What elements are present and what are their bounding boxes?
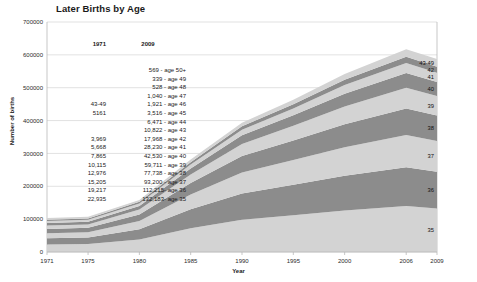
y-axis-tick: 0 (40, 249, 44, 255)
x-axis-tick: 2006 (400, 258, 414, 264)
y-axis-tick: 100000 (23, 216, 44, 222)
y-axis-tick: 300000 (23, 151, 44, 157)
table-row (58, 66, 106, 75)
series-label-42: 42 (428, 67, 434, 73)
table-row: 43-49 (58, 100, 106, 109)
x-axis-tick: 1995 (287, 258, 301, 264)
x-axis-tick: 1990 (235, 258, 249, 264)
table-row (58, 75, 106, 84)
x-axis-tick: 1980 (133, 258, 147, 264)
table-row: 1,921 - age 46 (110, 100, 186, 109)
table-row: 10,822 - age 43 (110, 126, 186, 135)
table-row: 22,935 (58, 195, 106, 204)
table-row: 339 - age 49 (110, 75, 186, 84)
table-row: 59,711 - age 39 (110, 161, 186, 170)
x-axis-tick: 2000 (338, 258, 352, 264)
table-row (58, 83, 106, 92)
y-axis-tick: 500000 (23, 85, 44, 91)
table-row: 12,976 (58, 169, 106, 178)
table-row: 112,215- age 36 (110, 186, 186, 195)
table-row: 569 - age 50+ (110, 66, 186, 75)
table-row: 28,230 - age 41 (110, 143, 186, 152)
table-row: 6,471 - age 44 (110, 118, 186, 127)
y-axis-tick: 700000 (23, 19, 44, 25)
table-row: 5161 (58, 109, 106, 118)
series-label-43-49: 43-49 (419, 60, 434, 66)
y-axis-tick: 200000 (23, 183, 44, 189)
x-axis-tick: 1985 (184, 258, 198, 264)
y-axis-tick: 400000 (23, 118, 44, 124)
table-row: 17,968 - age 42 (110, 135, 186, 144)
table-row: 19,217 (58, 186, 106, 195)
table-row: 77,738 - age 38 (110, 169, 186, 178)
data-table-1971: 1971 43-4951613,9695,6687,86510,11512,97… (58, 23, 106, 221)
table-row (58, 126, 106, 135)
table-row: 5,668 (58, 143, 106, 152)
table-row: 42,530 - age 40 (110, 152, 186, 161)
table-header-1971: 1971 (58, 40, 106, 49)
table-row (58, 118, 106, 127)
series-label-36: 36 (428, 187, 434, 193)
table-header-2009: 2009 (110, 40, 186, 49)
chart-container: Later Births by Age Number of births Yea… (0, 0, 477, 282)
table-row: 15,205 (58, 178, 106, 187)
x-axis-tick: 1975 (81, 258, 95, 264)
table-row: 7,865 (58, 152, 106, 161)
table-row: 3,969 (58, 135, 106, 144)
series-label-39: 39 (428, 103, 434, 109)
y-axis-tick: 600000 (23, 52, 44, 58)
x-axis-tick: 1971 (40, 258, 54, 264)
series-label-35: 35 (428, 227, 434, 233)
table-row: 3,516 - age 45 (110, 109, 186, 118)
series-label-40: 40 (428, 86, 434, 92)
x-axis-tick: 2009 (430, 258, 444, 264)
table-row: 10,115 (58, 161, 106, 170)
table-row: 528 - age 48 (110, 83, 186, 92)
table-row: 93,200 - age 37 (110, 178, 186, 187)
table-row: 132,183- age 35 (110, 195, 186, 204)
table-row: 1,040 - age 47 (110, 92, 186, 101)
series-label-38: 38 (428, 125, 434, 131)
table-row (58, 92, 106, 101)
series-label-41: 41 (428, 74, 434, 80)
series-label-37: 37 (428, 153, 434, 159)
data-table-2009: 2009 569 - age 50+339 - age 49528 - age … (110, 23, 186, 221)
